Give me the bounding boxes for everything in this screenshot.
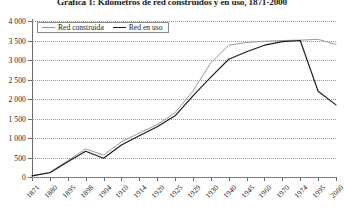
- legend-label: Red en uso: [129, 23, 163, 32]
- x-tick-label: 1904: [96, 183, 113, 200]
- x-tick-label: 1960: [257, 183, 274, 200]
- legend-label: Red construida: [58, 23, 104, 32]
- x-tick-label: 1929: [185, 183, 202, 200]
- x-tick-label: 1945: [239, 183, 256, 200]
- x-tick-mark: [229, 178, 230, 181]
- x-tick-mark: [104, 178, 105, 181]
- y-tick-label: 4 000: [8, 17, 26, 26]
- x-tick-label: 1920: [150, 183, 167, 200]
- x-tick-label: 1925: [167, 183, 184, 200]
- x-tick-label: 1880: [42, 183, 59, 200]
- x-tick-mark: [193, 178, 194, 181]
- x-tick-mark: [121, 178, 122, 181]
- x-tick-mark: [300, 178, 301, 181]
- line-swatch-black-icon: [113, 27, 126, 28]
- y-tick-label: 500: [14, 153, 26, 162]
- x-tick-mark: [264, 178, 265, 181]
- y-tick-label: 0: [22, 173, 26, 182]
- y-tick-label: 3 000: [8, 56, 26, 65]
- y-tick-label: 2 000: [8, 95, 26, 104]
- x-tick-label: 1871: [24, 183, 41, 200]
- legend-entry-red-en-uso: Red en uso: [113, 23, 163, 32]
- chart-legend: Red construida Red en uso: [37, 22, 169, 33]
- x-tick-label: 2000: [328, 183, 344, 200]
- plot-area: 4 0003 5003 0002 5002 0001 5001 0005000: [32, 21, 336, 177]
- x-tick-mark: [139, 178, 140, 181]
- x-tick-label: 1970: [275, 183, 292, 200]
- y-tick-label: 2 500: [8, 75, 26, 84]
- legend-entry-red-construida: Red construida: [42, 23, 104, 32]
- x-tick-mark: [318, 178, 319, 181]
- x-axis-ticks: 1871188018951898190419101914192019251929…: [32, 178, 336, 208]
- chart-title: Gráfica 1: Kilómetros de red construidos…: [0, 0, 344, 8]
- x-tick-label: 1910: [114, 183, 131, 200]
- x-tick-label: 1974: [293, 183, 310, 200]
- y-tick-label: 1 500: [8, 114, 26, 123]
- x-tick-mark: [175, 178, 176, 181]
- x-tick-label: 1914: [132, 183, 149, 200]
- x-tick-mark: [282, 178, 283, 181]
- y-tick-label: 1 000: [8, 134, 26, 143]
- x-tick-mark: [211, 178, 212, 181]
- x-tick-label: 1930: [203, 183, 220, 200]
- x-tick-mark: [247, 178, 248, 181]
- series-line: [32, 41, 336, 176]
- x-tick-mark: [50, 178, 51, 181]
- x-tick-label: 1898: [78, 183, 95, 200]
- x-tick-mark: [336, 178, 337, 181]
- x-tick-label: 1895: [60, 183, 77, 200]
- chart-figure: Gráfica 1: Kilómetros de red construidos…: [0, 0, 344, 209]
- line-swatch-gray-icon: [42, 27, 55, 28]
- y-tick-label: 3 500: [8, 36, 26, 45]
- x-tick-label: 1940: [221, 183, 238, 200]
- series-lines: [32, 21, 336, 177]
- x-tick-mark: [157, 178, 158, 181]
- x-tick-mark: [32, 178, 33, 181]
- x-tick-mark: [86, 178, 87, 181]
- x-tick-mark: [68, 178, 69, 181]
- x-tick-label: 1995: [311, 183, 328, 200]
